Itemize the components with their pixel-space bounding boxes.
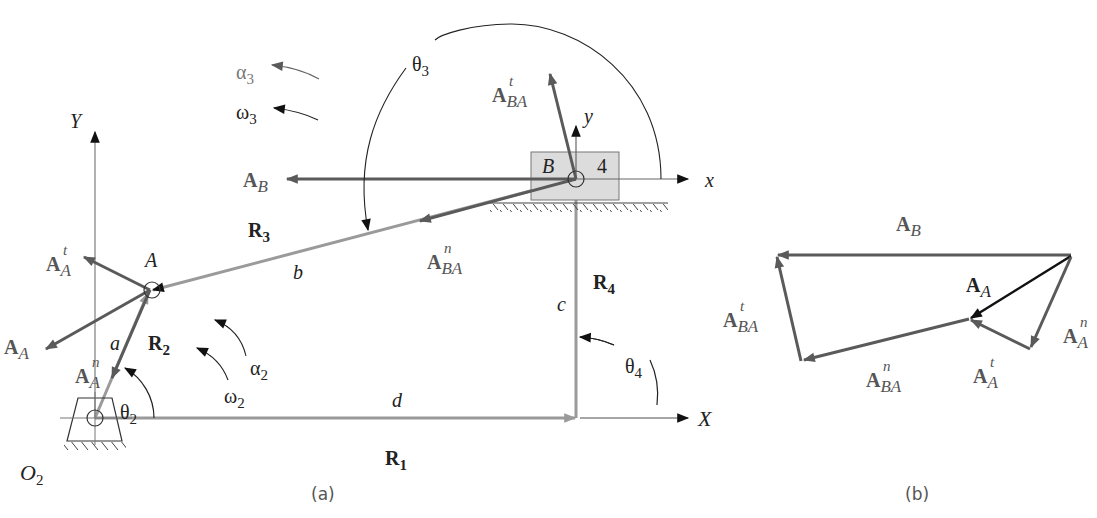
slider-crank-acceleration-diagram	[0, 0, 1097, 518]
omega3-arc	[274, 108, 318, 120]
label-theta2: θ2	[120, 402, 137, 427]
label-local-y: y	[584, 106, 593, 126]
label-alpha2: α2	[250, 358, 268, 383]
label-r4: R4	[593, 272, 615, 297]
theta4-arc	[580, 337, 658, 405]
label-link-d: d	[392, 390, 402, 410]
label-global-x: X	[698, 408, 711, 430]
vector-a-a	[46, 290, 150, 349]
label-a-a-n: AnA	[75, 366, 100, 386]
label-theta3: θ3	[412, 54, 429, 79]
alpha2-arc	[215, 320, 246, 356]
label-point-a: A	[145, 250, 157, 270]
label-block-4: 4	[597, 156, 607, 176]
label-r1: R1	[385, 448, 407, 473]
label-link-a: a	[110, 333, 120, 353]
poly-label-a-a-n: AnA	[1063, 326, 1088, 346]
label-point-b: B	[542, 156, 554, 176]
caption-a: (a)	[311, 484, 335, 504]
slider-block-4	[490, 152, 668, 212]
poly-label-a-b: AB	[896, 214, 921, 234]
poly-vector-a-a-t	[971, 320, 1030, 349]
caption-b: (b)	[905, 484, 929, 504]
poly-vector-a-ba-t	[777, 257, 801, 361]
label-global-y: Y	[70, 111, 81, 131]
label-theta4: θ4	[625, 356, 642, 381]
omega2-arc	[197, 348, 228, 380]
label-a-ba-n: AnBA	[427, 252, 462, 272]
label-link-b: b	[293, 262, 303, 282]
poly-vector-a-ba-n	[804, 319, 969, 360]
label-a-a: AA	[4, 337, 29, 357]
poly-label-a-a-t: AtA	[973, 366, 998, 386]
poly-label-a-ba-n: AnBA	[866, 370, 901, 390]
label-alpha3: α3	[236, 62, 254, 87]
alpha3-arc	[272, 65, 319, 79]
label-local-x: x	[705, 170, 714, 190]
label-r3: R3	[248, 220, 270, 245]
label-omega2: ω2	[224, 386, 245, 411]
poly-label-a-a: AA	[966, 275, 991, 295]
label-r2: R2	[148, 333, 170, 358]
label-link-c: c	[557, 294, 566, 314]
label-a-ba-t: AtBA	[492, 85, 527, 105]
label-a-a-t: AtA	[46, 254, 71, 274]
vector-a-a-t	[84, 257, 150, 290]
label-a-b: AB	[243, 170, 268, 190]
label-omega3: ω3	[236, 102, 257, 127]
poly-label-a-ba-t: AtBA	[723, 310, 758, 330]
label-o2: O2	[20, 462, 43, 488]
